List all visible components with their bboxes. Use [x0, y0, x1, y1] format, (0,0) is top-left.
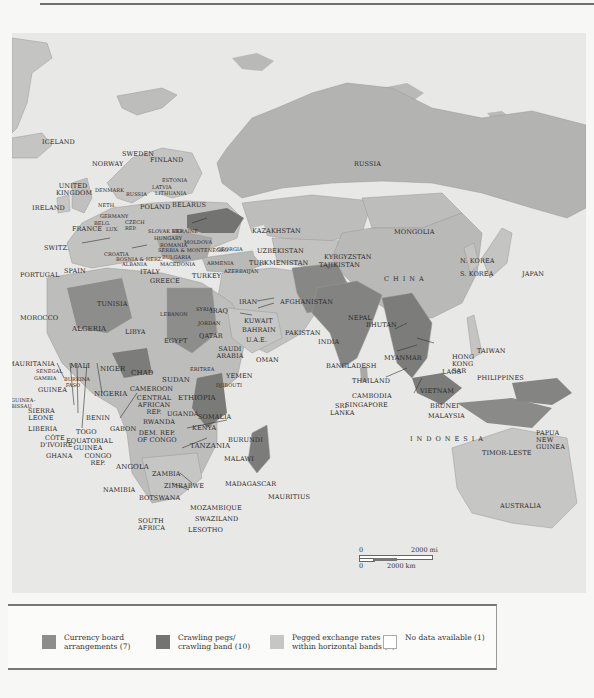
label-kazakhstan: KAZAKHSTAN	[252, 228, 301, 235]
swatch-currency-board	[42, 635, 56, 649]
label-singapore: SINGAPORE	[345, 402, 388, 409]
label-hungary: HUNGARY	[154, 236, 182, 242]
label-ireland: IRELAND	[32, 205, 65, 212]
label-egypt: EGYPT	[164, 338, 187, 345]
label-lesotho: LESOTHO	[188, 527, 223, 534]
label-greece: GREECE	[150, 278, 180, 285]
swatch-no-data	[383, 635, 397, 649]
legend-line: arrangements (7)	[64, 643, 130, 652]
label-taiwan: TAIWAN	[477, 348, 506, 355]
label-south-africa: SOUTH AFRICA	[138, 518, 168, 532]
label-brunei: BRUNEI	[430, 403, 459, 410]
label-gabon: GABON	[110, 426, 136, 433]
label-poland: POLAND	[140, 204, 170, 211]
label-finland: FINLAND	[150, 157, 183, 164]
label-niger: NIGER	[100, 366, 125, 373]
label-gambia: GAMBIA	[34, 376, 57, 382]
legend-line: within horizontal bands (3)	[292, 643, 395, 652]
label-estonia: ESTONIA	[162, 178, 187, 184]
label-iceland: ICELAND	[42, 139, 75, 146]
label-uae: U.A.E.	[246, 337, 267, 344]
label-bulgaria: BULGARIA	[162, 255, 191, 261]
label-myanmar: MYANMAR	[384, 355, 422, 362]
label-algeria: ALGERIA	[72, 326, 106, 333]
label-bahrain: BAHRAIN	[242, 327, 276, 334]
label-italy: ITALY	[140, 269, 160, 276]
swatch-crawling-peg	[156, 635, 170, 649]
label-mauritius: MAURITIUS	[268, 494, 310, 501]
legend-line: No data available (1)	[405, 634, 485, 643]
label-mali: MALI	[70, 363, 90, 370]
label-australia: AUSTRALIA	[500, 503, 541, 510]
label-rwanda: RWANDA	[143, 419, 175, 426]
label-afghanistan: AFGHANISTAN	[280, 299, 333, 306]
label-zimbabwe: ZIMBABWE	[164, 483, 204, 490]
label-vietnam: VIETNAM	[420, 388, 454, 395]
label-sierra-leone: SIERRA LEONE	[28, 408, 54, 422]
label-papua-new-guinea: PAPUA NEW GUINEA	[536, 430, 562, 451]
label-philippines: PHILIPPINES	[477, 375, 524, 382]
label-madagascar: MADAGASCAR	[225, 481, 276, 488]
label-libya: LIBYA	[125, 329, 146, 336]
label-somalia: SOMALIA	[198, 414, 231, 421]
label-kuwait: KUWAIT	[244, 318, 273, 325]
label-jordan: JORDAN	[198, 321, 220, 327]
legend-text: Currency board arrangements (7)	[64, 634, 130, 651]
label-hong-kong: HONG KONG SAR	[452, 354, 482, 375]
label-north-korea: N. KOREA	[460, 258, 495, 265]
scale-zero-miles: 0	[359, 546, 363, 554]
label-benin: BENIN	[86, 415, 110, 422]
label-chad: CHAD	[131, 370, 154, 377]
label-saudi-arabia: SAUDI ARABIA	[216, 346, 244, 360]
legend-item-no-data: No data available (1)	[383, 634, 485, 649]
scale-km-bar-mid	[373, 558, 397, 561]
label-netherlands: NETH.	[98, 203, 116, 209]
label-japan: JAPAN	[522, 271, 544, 278]
label-moldova: MOLDOVA	[184, 240, 212, 246]
label-tanzania: TANZANIA	[190, 443, 230, 450]
label-mozambique: MOZAMBIQUE	[190, 505, 242, 512]
label-bhutan: BHUTAN	[366, 322, 397, 329]
label-yemen: YEMEN	[226, 373, 253, 380]
legend-text: Pegged exchange rates within horizontal …	[292, 634, 395, 651]
legend-text: No data available (1)	[405, 634, 485, 643]
label-ethiopia: ETHIOPIA	[178, 395, 216, 402]
scale-km-label: 2000 km	[387, 562, 416, 570]
label-cameroon: CAMEROON	[130, 386, 173, 393]
label-lebanon: LEBANON	[160, 312, 188, 318]
label-pakistan: PAKISTAN	[285, 330, 321, 337]
label-dem-rep-congo: DEM. REP. OF CONGO	[136, 430, 178, 444]
map-frame: ICELAND NORWAY SWEDEN FINLAND RUSSIA EST…	[12, 33, 586, 593]
label-burundi: BURUNDI	[228, 437, 263, 444]
label-bangladesh: BANGLADESH	[326, 363, 376, 370]
legend-item-horizontal-bands: Pegged exchange rates within horizontal …	[270, 634, 395, 651]
label-luxembourg: LUX.	[106, 227, 119, 233]
label-macedonia: MACEDONIA	[160, 262, 195, 268]
label-united-kingdom: UNITED KINGDOM	[56, 183, 90, 197]
label-iran: IRAN	[239, 299, 257, 306]
label-denmark: DENMARK	[95, 188, 124, 194]
label-zambia: ZAMBIA	[152, 471, 181, 478]
label-ukraine: UKRAINE	[172, 229, 198, 235]
label-kyrgyzstan: KYRGYZSTAN	[324, 254, 372, 261]
legend-item-currency-board: Currency board arrangements (7)	[42, 634, 130, 651]
label-spain: SPAIN	[64, 268, 86, 275]
label-belarus: BELARUS	[172, 202, 206, 209]
label-albania: ALBANIA	[122, 262, 147, 268]
label-russia-kaliningrad: RUSSIA	[126, 192, 147, 198]
label-mongolia: MONGOLIA	[394, 229, 435, 236]
label-malaysia: MALAYSIA	[428, 413, 465, 420]
legend-line: crawling band (10)	[178, 643, 250, 652]
label-angola: ANGOLA	[116, 464, 149, 471]
label-senegal: SENEGAL	[36, 369, 63, 375]
legend-item-crawling-peg: Crawling pegs/ crawling band (10)	[156, 634, 250, 651]
swatch-horizontal-bands	[270, 635, 284, 649]
label-qatar: QATAR	[199, 333, 223, 340]
label-norway: NORWAY	[92, 161, 123, 168]
label-cambodia: CAMBODIA	[352, 393, 392, 400]
label-indonesia: INDONESIA	[410, 436, 487, 443]
label-czech-rep: CZECH REP.	[125, 220, 145, 231]
label-morocco: MOROCCO	[20, 315, 58, 322]
label-botswana: BOTSWANA	[139, 495, 180, 502]
label-georgia: GEORGIA	[217, 247, 243, 253]
